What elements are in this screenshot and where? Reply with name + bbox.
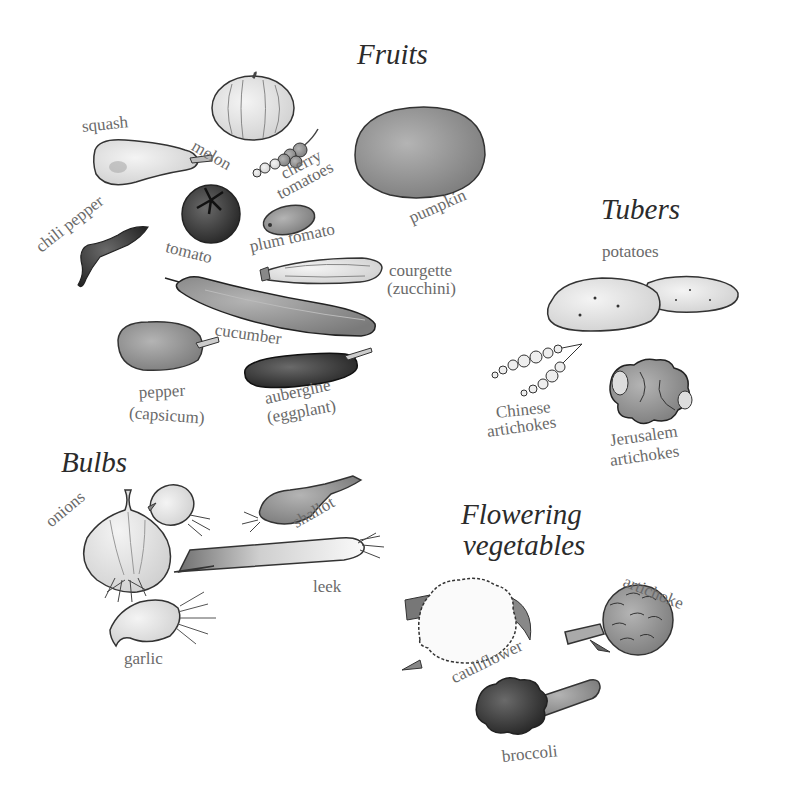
garlic-drawing bbox=[110, 592, 216, 646]
heading-flowering-line2: vegetables bbox=[463, 531, 585, 560]
chinese-artichokes-drawing bbox=[492, 344, 582, 396]
label-courgette-line2: (zucchini) bbox=[387, 280, 456, 298]
chili-pepper-drawing bbox=[78, 227, 148, 287]
label-potatoes: potatoes bbox=[602, 243, 659, 261]
label-garlic: garlic bbox=[124, 650, 163, 668]
courgette-drawing bbox=[260, 258, 382, 284]
label-leek: leek bbox=[313, 578, 341, 596]
label-courgette-line1: courgette bbox=[389, 262, 452, 280]
heading-flowering-line1: Flowering bbox=[461, 500, 582, 529]
melon-drawing bbox=[212, 72, 294, 140]
pumpkin-drawing bbox=[355, 107, 485, 198]
leek-drawing bbox=[174, 533, 384, 572]
heading-tubers: Tubers bbox=[601, 195, 680, 224]
pepper-drawing bbox=[118, 322, 219, 371]
tomato-drawing bbox=[182, 185, 240, 243]
heading-bulbs: Bulbs bbox=[61, 448, 127, 477]
heading-fruits: Fruits bbox=[357, 40, 428, 69]
broccoli-drawing bbox=[476, 678, 600, 735]
potatoes-drawing bbox=[548, 277, 739, 331]
jerusalem-artichokes-drawing bbox=[610, 359, 692, 423]
onions-drawing bbox=[84, 479, 210, 602]
